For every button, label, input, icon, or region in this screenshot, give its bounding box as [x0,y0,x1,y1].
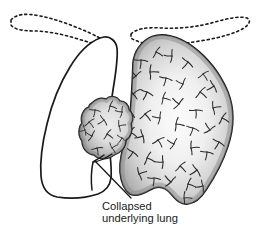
clavicle-left-dashed-icon [11,14,103,44]
right-lung-shape [120,35,233,206]
lung-illustration: Collapsed underlying lung [0,0,260,231]
annotation-label-line2: underlying lung [102,212,178,224]
illustration-canvas: Collapsed underlying lung [0,0,260,231]
annotation-label-line1: Collapsed [102,200,152,212]
